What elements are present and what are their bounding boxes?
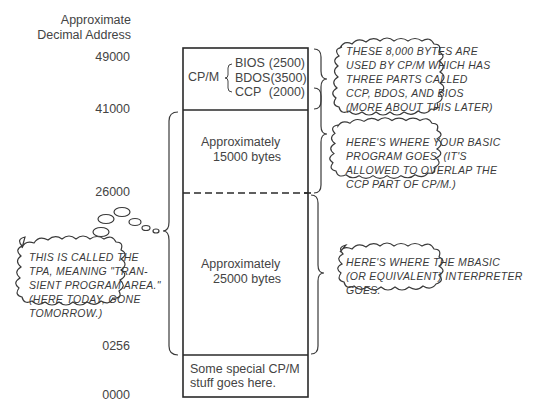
thought-bubble-icon <box>93 228 109 237</box>
address-0256: 0256 <box>70 339 130 353</box>
tpa-brace-icon <box>163 112 178 355</box>
interpreter-region-label: Approximately 25000 bytes <box>201 257 281 287</box>
thought-bubble-icon <box>114 208 130 217</box>
thought-bubble-icon <box>129 219 141 226</box>
header-line-1: Approximate <box>37 13 131 28</box>
header-line-2: Decimal Address <box>37 28 131 43</box>
tpa-callout-text: THIS IS CALLED THE TPA, MEANING "TRAN- S… <box>29 250 161 320</box>
cpm-callout-text: THESE 8,000 BYTES ARE USED BY CP/M WHICH… <box>346 44 493 114</box>
mbasic-callout-text: HERE'S WHERE THE MBASIC (OR EQUIVALENT) … <box>346 255 523 297</box>
address-26000: 26000 <box>70 185 130 199</box>
address-41000: 41000 <box>70 102 130 116</box>
address-49000: 49000 <box>70 50 130 64</box>
address-0000: 0000 <box>70 388 130 402</box>
cpm-part-ccp: CCP (2000) <box>235 85 305 100</box>
thought-bubble-icon <box>142 226 150 231</box>
thought-bubble-icon <box>98 215 114 224</box>
basic-program-callout-text: HERE'S WHERE YOUR BASIC PROGRAM GOES. (I… <box>346 135 501 191</box>
basic-program-region-label: Approximately 15000 bytes <box>201 135 281 165</box>
address-axis-header: Approximate Decimal Address <box>37 13 131 43</box>
low-region-label: Some special CP/M stuff goes here. <box>190 362 300 390</box>
cpm-label: CP/M <box>188 70 219 85</box>
cpm-part-bios: BIOS (2500) <box>235 56 305 71</box>
memory-box <box>183 48 308 397</box>
cpm-parts-list: BIOS (2500) BDOS (3500) CCP (2000) <box>235 56 305 100</box>
basic-brace-icon <box>314 88 327 193</box>
thought-bubble-icon <box>153 229 159 233</box>
cpm-part-bdos: BDOS (3500) <box>235 71 305 86</box>
cpm-parts-brace-icon <box>225 64 232 92</box>
mbasic-brace-icon <box>311 195 324 354</box>
